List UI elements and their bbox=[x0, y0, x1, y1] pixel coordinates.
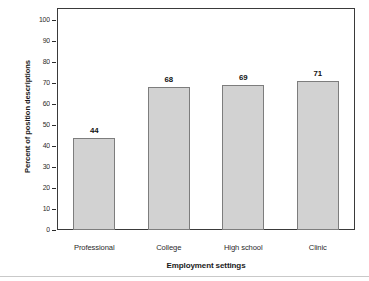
y-axis-tick: 40 bbox=[42, 141, 57, 151]
y-axis-tick: 20 bbox=[42, 183, 57, 193]
y-axis-tick-mark bbox=[52, 83, 56, 84]
bar-value-label: 69 bbox=[213, 73, 273, 82]
y-axis-tick: 30 bbox=[42, 162, 57, 172]
y-axis-tick: 60 bbox=[42, 99, 57, 109]
y-axis-tick-label: 30 bbox=[43, 162, 50, 172]
bar bbox=[297, 81, 339, 230]
y-axis-tick-label: 100 bbox=[39, 15, 50, 25]
bar-value-label: 71 bbox=[288, 69, 348, 78]
y-axis-title: Percent of position descriptions bbox=[23, 17, 32, 217]
y-axis-tick-label: 10 bbox=[43, 204, 50, 214]
y-axis-tick-label: 70 bbox=[43, 78, 50, 88]
x-axis-title: Employment settings bbox=[57, 261, 355, 270]
y-axis-tick-mark bbox=[52, 146, 56, 147]
y-axis-tick-label: 90 bbox=[43, 36, 50, 46]
y-axis-tick-mark bbox=[52, 230, 56, 231]
y-axis-tick: 50 bbox=[42, 120, 57, 130]
bar bbox=[222, 85, 264, 230]
y-axis-tick-mark bbox=[52, 209, 56, 210]
bottom-divider bbox=[0, 276, 369, 277]
bar-value-label: 44 bbox=[64, 126, 124, 135]
x-axis-tick-label: Clinic bbox=[273, 243, 363, 252]
bar bbox=[73, 138, 115, 230]
y-axis-tick-mark bbox=[52, 125, 56, 126]
y-axis-tick: 80 bbox=[42, 57, 57, 67]
y-axis-tick-mark bbox=[52, 188, 56, 189]
y-axis-tick-label: 0 bbox=[46, 225, 50, 235]
y-axis-tick-mark bbox=[52, 167, 56, 168]
y-axis-tick-label: 80 bbox=[43, 57, 50, 67]
bar bbox=[148, 87, 190, 230]
y-axis-tick-label: 60 bbox=[43, 99, 50, 109]
y-axis-tick-mark bbox=[52, 20, 56, 21]
y-axis-tick-mark bbox=[52, 41, 56, 42]
y-axis-tick: 70 bbox=[42, 78, 57, 88]
y-axis-tick: 90 bbox=[42, 36, 57, 46]
y-axis-tick: 0 bbox=[46, 225, 57, 235]
y-axis-tick-mark bbox=[52, 104, 56, 105]
bar-value-label: 68 bbox=[139, 75, 199, 84]
y-axis-tick: 100 bbox=[38, 15, 57, 25]
y-axis-tick-label: 20 bbox=[43, 183, 50, 193]
y-axis-tick: 10 bbox=[42, 204, 57, 214]
y-axis-tick-label: 40 bbox=[43, 141, 50, 151]
y-axis-tick-label: 50 bbox=[43, 120, 50, 130]
bar-chart-figure: 1009080706050403020100 Percent of positi… bbox=[0, 0, 369, 281]
y-axis-tick-mark bbox=[52, 62, 56, 63]
